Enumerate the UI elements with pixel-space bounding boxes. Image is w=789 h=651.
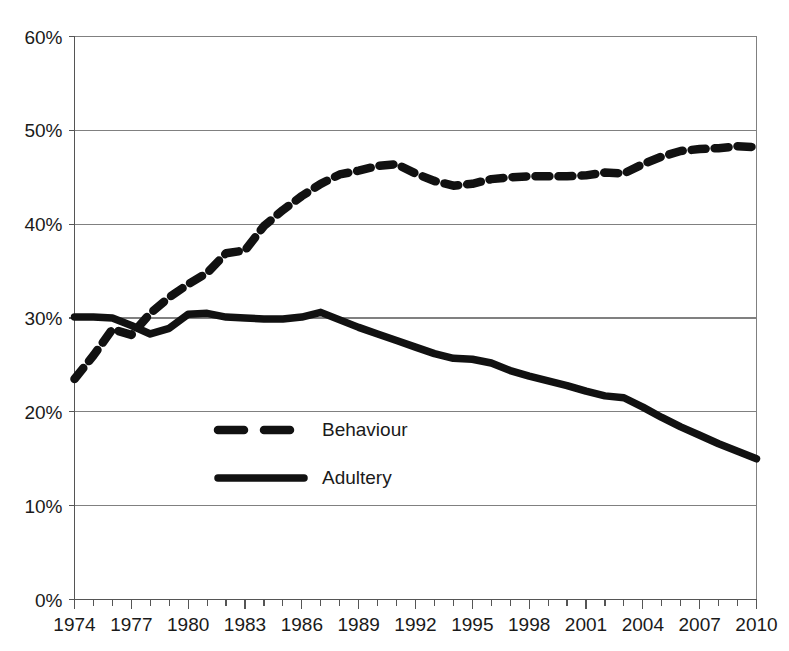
x-tick-label-1995: 1995 bbox=[451, 614, 493, 635]
legend-label-adultery: Adultery bbox=[322, 467, 392, 488]
series-line-adultery bbox=[75, 312, 757, 458]
gridlines bbox=[75, 37, 757, 600]
chart-legend: BehaviourAdultery bbox=[218, 419, 408, 488]
x-tick-label-1980: 1980 bbox=[167, 614, 209, 635]
legend-label-behaviour: Behaviour bbox=[322, 419, 408, 440]
x-axis-tickmarks bbox=[75, 600, 757, 609]
x-axis-tick-labels: 1974197719801983198619891992199519982001… bbox=[53, 614, 777, 635]
y-tick-label-0pct: 0% bbox=[35, 590, 63, 611]
y-tick-label-50pct: 50% bbox=[24, 120, 62, 141]
x-tick-label-1983: 1983 bbox=[224, 614, 266, 635]
x-tick-label-1998: 1998 bbox=[508, 614, 550, 635]
line-chart: 0%10%20%30%40%50%60% 1974197719801983198… bbox=[0, 0, 789, 651]
y-tick-label-20pct: 20% bbox=[24, 402, 62, 423]
y-tick-label-10pct: 10% bbox=[24, 496, 62, 517]
chart-canvas: 0%10%20%30%40%50%60% 1974197719801983198… bbox=[0, 0, 789, 651]
y-tick-label-40pct: 40% bbox=[24, 214, 62, 235]
x-tick-label-1977: 1977 bbox=[110, 614, 152, 635]
x-tick-label-2001: 2001 bbox=[565, 614, 607, 635]
y-axis-tick-labels: 0%10%20%30%40%50%60% bbox=[24, 27, 62, 611]
y-tick-label-30pct: 30% bbox=[24, 308, 62, 329]
x-tick-label-1992: 1992 bbox=[394, 614, 436, 635]
x-tick-label-2010: 2010 bbox=[735, 614, 777, 635]
x-tick-label-1986: 1986 bbox=[281, 614, 323, 635]
x-tick-label-1989: 1989 bbox=[338, 614, 380, 635]
y-tick-label-60pct: 60% bbox=[24, 27, 62, 48]
x-tick-label-2004: 2004 bbox=[622, 614, 665, 635]
x-tick-label-1974: 1974 bbox=[53, 614, 96, 635]
x-tick-label-2007: 2007 bbox=[679, 614, 721, 635]
